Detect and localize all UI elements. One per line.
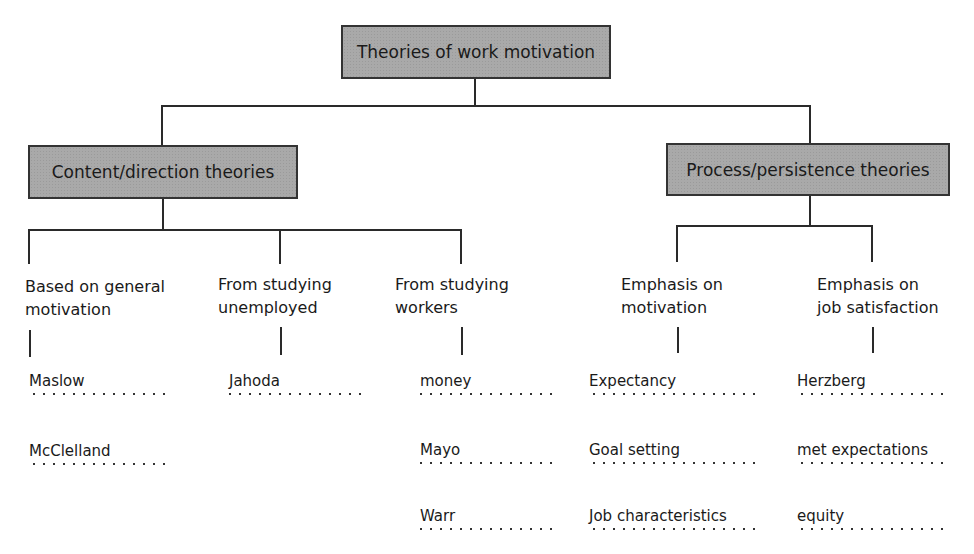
subgroup-label-line: Based on general [25,275,165,298]
theory-item-money: money [416,371,560,395]
category-label: Content/direction theories [52,162,275,182]
theory-item-job-characteristics: Job characteristics [589,506,761,530]
subgroup-label-line: motivation [621,296,723,319]
subgroup-studying-workers: From studying workers [395,273,509,319]
theory-item-equity: equity [797,506,951,530]
subgroup-general-motivation: Based on general motivation [25,275,165,321]
subgroup-label-line: From studying [395,273,509,296]
theory-item-maslow: Maslow [29,371,173,395]
category-node-content-direction: Content/direction theories [28,145,298,199]
theory-item-mayo: Mayo [416,440,560,464]
subgroup-label-line: From studying [218,273,332,296]
theory-item-expectancy: Expectancy [589,371,759,395]
category-node-process-persistence: Process/persistence theories [666,143,950,196]
theory-item-warr: Warr [416,506,560,530]
diagram-canvas: Theories of work motivation Content/dire… [0,0,974,554]
theory-item-jahoda: Jahoda [225,371,369,395]
subgroup-emphasis-job-satisfaction: Emphasis on job satisfaction [817,273,939,319]
subgroup-label-line: Emphasis on [817,273,939,296]
subgroup-emphasis-motivation: Emphasis on motivation [621,273,723,319]
subgroup-label-line: Emphasis on [621,273,723,296]
theory-item-goal-setting: Goal setting [589,440,759,464]
subgroup-label-line: job satisfaction [817,296,939,319]
subgroup-label-line: workers [395,296,509,319]
subgroup-studying-unemployed: From studying unemployed [218,273,332,319]
root-node-label: Theories of work motivation [357,42,595,62]
category-label: Process/persistence theories [686,160,929,180]
subgroup-label-line: motivation [25,298,165,321]
subgroup-label-line: unemployed [218,296,332,319]
theory-item-herzberg: Herzberg [797,371,951,395]
root-node: Theories of work motivation [341,25,611,79]
theory-item-met-expectations: met expectations [797,440,951,464]
theory-item-mcclelland: McClelland [29,441,173,465]
